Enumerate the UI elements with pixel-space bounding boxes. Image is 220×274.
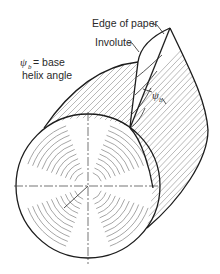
face-arc [56,154,76,174]
radius-line [64,186,88,208]
face-arc [95,168,106,179]
face-arc [95,193,106,204]
angle-marker-symbol: ψ [152,89,159,101]
hatch-line [30,20,220,240]
hatch-line [108,20,220,240]
helical-gear-diagram: Edge of paper Involute ψ b = base helix … [0,0,220,274]
hatch-line [180,20,220,240]
hatch-line [78,55,158,135]
edge-of-paper-label: Edge of paper [92,17,158,29]
hatch-line [114,20,220,240]
hatch-line [204,20,220,240]
face-arc [61,196,78,213]
hatch-line [24,20,220,240]
hatch-line [90,20,220,240]
face-arc [61,159,78,176]
hatch-line [0,20,210,240]
face-arc [100,198,120,218]
face-arc [108,131,143,166]
face-arc [33,206,68,241]
face-arc [70,193,81,204]
hatch-line [6,20,216,240]
hatch-line [210,20,220,240]
face-arc [101,199,124,222]
hatch-line [168,20,220,240]
hatch-line [72,20,220,240]
face-arc [70,168,81,179]
face-arc [93,191,101,199]
face-arc [93,173,101,181]
face-arc [100,154,120,174]
psi-symbol: ψ [20,56,27,68]
angle-marker-subscript: b [159,96,163,104]
face-arc [98,196,115,213]
hatch-line [192,20,220,240]
face-arc [56,198,76,218]
face-arc [75,173,83,181]
involute-label: Involute [95,36,132,48]
hatch-line [36,20,220,240]
hatch-line [156,20,220,240]
face-arc [51,149,74,172]
hatch-line [84,20,220,240]
involute-curve-1 [137,55,162,77]
face-arc [51,199,74,222]
psi-definition: = base [33,56,65,68]
involute-edge [138,28,170,62]
hatch-line [174,20,220,240]
face-arc [98,159,115,176]
face-arc [101,149,124,172]
hatch-line [186,20,220,240]
face-arc [33,131,68,166]
psi-definition-line2: helix angle [22,69,72,81]
paper-right-edge [147,28,208,228]
hatch-line [72,55,152,135]
hatch-line [216,20,220,240]
face-arc [108,206,143,241]
